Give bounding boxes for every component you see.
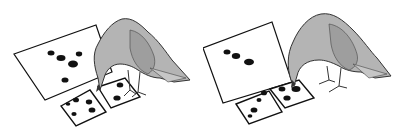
right-illustration (203, 0, 406, 131)
panel-right: Crow pecking at a choice card below a sa… (203, 0, 406, 131)
crow (288, 14, 391, 92)
left-illustration (0, 0, 203, 131)
choice-card-left[interactable] (61, 90, 106, 126)
panel-left: Crow pecking at the matching card below … (0, 0, 203, 131)
